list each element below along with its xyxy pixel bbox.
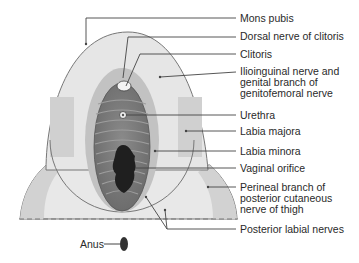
label-urethra: Urethra: [240, 110, 275, 121]
label-posterior-labial: Posterior labial nerves: [240, 224, 344, 235]
clitoris-shape: [117, 81, 131, 91]
label-dorsal-nerve: Dorsal nerve of clitoris: [240, 31, 344, 42]
label-clitoris: Clitoris: [240, 49, 272, 60]
urethra-center: [122, 114, 124, 116]
label-labia-minora: Labia minora: [240, 146, 301, 157]
label-labia-majora: Labia majora: [240, 126, 301, 137]
anus-shape: [120, 237, 128, 251]
label-anus: Anus: [80, 239, 104, 250]
label-mons-pubis: Mons pubis: [240, 13, 294, 24]
label-perineal-3: nerve of thigh: [240, 204, 304, 215]
label-ilioinguinal-3: genitofemoral nerve: [240, 88, 333, 99]
label-vaginal-orifice: Vaginal orifice: [240, 163, 305, 174]
labia-majora-shade-left: [50, 97, 74, 157]
labia-majora-shade-right: [178, 97, 202, 157]
